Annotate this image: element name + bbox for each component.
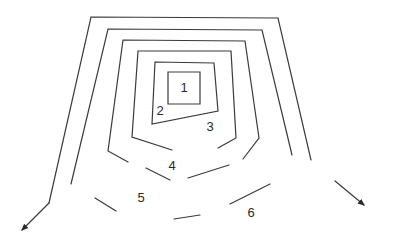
zone-label-4: 4	[168, 158, 175, 173]
zone-6-boundary-bottom	[174, 215, 200, 219]
zone-4-boundary-left	[108, 40, 259, 162]
zone-5-boundary-bottom-right	[230, 184, 270, 204]
zone-label-1: 1	[180, 80, 187, 95]
zone-4-boundary-bottom-left	[146, 168, 170, 180]
zone-label-2: 2	[156, 103, 163, 118]
outward-arrow-right-icon	[335, 181, 364, 205]
concentric-zone-diagram: 1 2 3 4 5 6	[0, 0, 397, 241]
zone-label-3: 3	[206, 119, 213, 134]
zone-3-boundary-left	[132, 51, 236, 150]
zone-label-5: 5	[137, 190, 144, 205]
zone-4-boundary-bottom-right	[188, 165, 229, 178]
diagram-svg: 1 2 3 4 5 6	[0, 0, 397, 241]
outward-arrow-left-icon	[22, 203, 49, 230]
zone-5-boundary-bottom-left	[95, 198, 116, 211]
zone-5-boundary	[71, 29, 292, 184]
zone-label-6: 6	[247, 205, 254, 220]
